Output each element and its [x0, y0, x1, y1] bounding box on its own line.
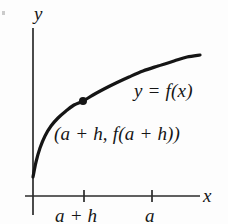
y-axis-label: y	[34, 4, 43, 23]
x-tick-label-a: a	[145, 206, 155, 224]
function-curve	[33, 55, 200, 177]
point-coordinates-label: (a + h, f(a + h))	[54, 124, 180, 143]
marked-point-dot	[79, 97, 87, 105]
x-tick-label-a-plus-h: a + h	[55, 206, 97, 224]
x-axis-label: x	[203, 186, 212, 205]
curve-equation-label: y = f(x)	[134, 81, 193, 100]
coordinate-plot	[0, 0, 228, 224]
figure-canvas: y x y = f(x) (a + h, f(a + h)) a + h a	[0, 0, 228, 224]
